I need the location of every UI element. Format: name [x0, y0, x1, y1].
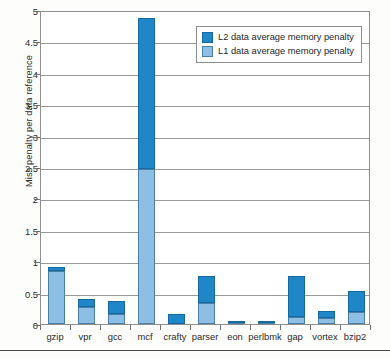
bar-segment-l2-gzip [48, 267, 65, 271]
x-axis-tick-label-crafty: crafty [164, 331, 187, 342]
x-axis-tick-label-gzip: gzip [46, 331, 63, 342]
x-axis-tick-label-gcc: gcc [108, 331, 123, 342]
x-axis-tick-label-perlbmk: perlbmk [248, 331, 281, 342]
y-axis-tick-label: 4.5 [4, 37, 38, 48]
bar-gcc [108, 10, 125, 324]
bar-segment-l2-parser [198, 276, 215, 303]
x-axis-tick-mark [190, 325, 191, 330]
x-axis-tick-mark [310, 325, 311, 330]
bar-vpr [78, 10, 95, 324]
x-axis-tick-mark [220, 325, 221, 330]
x-axis-tick-mark [100, 325, 101, 330]
bar-gzip [48, 10, 65, 324]
y-axis-tick-label: 3.5 [4, 100, 38, 111]
x-axis-tick-mark [40, 325, 41, 330]
legend-label: L1 data average memory penalty [218, 46, 354, 56]
legend-swatch-icon [202, 32, 213, 43]
x-axis-tick-mark [370, 325, 371, 330]
y-axis-tick-label: 4 [4, 68, 38, 79]
x-axis-tick-label-gap: gap [287, 331, 303, 342]
x-axis-tick-label-bzip2: bzip2 [344, 331, 366, 342]
bar-segment-l2-perlbmk [258, 321, 275, 323]
x-axis-tick-mark [280, 325, 281, 330]
x-axis-tick-mark [250, 325, 251, 330]
y-axis-tick-label: 3 [4, 131, 38, 142]
y-axis-tick-label: 5 [4, 6, 38, 17]
x-axis-tick-label-eon: eon [227, 331, 243, 342]
bar-segment-l1-parser [198, 303, 215, 324]
y-axis-title: Miss penalty per data reference [24, 36, 34, 206]
bar-segment-l1-vpr [78, 307, 95, 324]
x-axis-tick-mark [130, 325, 131, 330]
legend-item: L1 data average memory penalty [202, 44, 354, 58]
bar-segment-l2-gap [288, 276, 305, 317]
chart-legend: L2 data average memory penaltyL1 data av… [196, 26, 362, 63]
bar-segment-l2-crafty [168, 314, 185, 324]
y-axis-tick-label: 2.5 [4, 163, 38, 174]
x-axis-tick-label-vortex: vortex [312, 331, 338, 342]
bar-segment-l1-gcc [108, 314, 125, 324]
bar-mcf [138, 10, 155, 324]
bar-segment-l2-gcc [108, 301, 125, 314]
bottom-divider [0, 350, 390, 351]
x-axis-tick-mark [70, 325, 71, 330]
bar-segment-l2-vpr [78, 299, 95, 307]
bar-segment-l2-mcf [138, 18, 155, 169]
y-axis-tick-label: 1.5 [4, 225, 38, 236]
x-axis-tick-label-mcf: mcf [137, 331, 152, 342]
legend-label: L2 data average memory penalty [218, 32, 354, 42]
y-axis-tick-label: 0 [4, 320, 38, 331]
y-axis-tick-label: 0.5 [4, 288, 38, 299]
x-axis-tick-label-parser: parser [192, 331, 219, 342]
bar-segment-l2-vortex [318, 311, 335, 318]
legend-item: L2 data average memory penalty [202, 30, 354, 44]
y-axis-tick-label: 2 [4, 194, 38, 205]
bar-segment-l2-bzip2 [348, 291, 365, 312]
chart-figure: Miss penalty per data reference 00.511.5… [0, 0, 390, 358]
y-axis-tick-label: 1 [4, 257, 38, 268]
bar-segment-l1-vortex [318, 318, 335, 324]
bar-segment-l1-gap [288, 317, 305, 324]
bar-crafty [168, 10, 185, 324]
bar-segment-l1-gzip [48, 271, 65, 324]
legend-swatch-icon [202, 46, 213, 57]
x-axis-tick-mark [160, 325, 161, 330]
x-axis-tick-mark [340, 325, 341, 330]
x-axis-tick-label-vpr: vpr [78, 331, 91, 342]
bar-segment-l1-bzip2 [348, 312, 365, 324]
bar-segment-l2-eon [228, 321, 245, 323]
bar-segment-l1-mcf [138, 169, 155, 324]
